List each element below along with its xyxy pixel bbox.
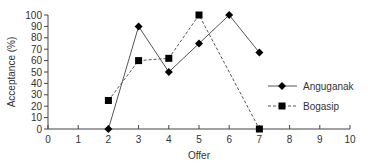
x-tick-label: 3 <box>136 134 142 145</box>
square-marker-icon <box>196 12 203 19</box>
y-tick-label: 90 <box>31 21 43 32</box>
series-bogasip <box>105 12 263 133</box>
series-line <box>108 15 259 129</box>
y-axis-label: Acceptance (%) <box>6 37 17 108</box>
series-anguganak <box>104 11 263 133</box>
y-tick-label: 60 <box>31 55 43 66</box>
x-tick-label: 5 <box>196 134 202 145</box>
series-line <box>108 15 259 129</box>
legend-item-bogasip: Bogasip <box>268 101 340 112</box>
diamond-marker-icon <box>135 22 143 30</box>
x-tick-label: 9 <box>317 134 323 145</box>
square-marker-icon <box>165 55 172 62</box>
y-tick-label: 20 <box>31 101 43 112</box>
x-tick-label: 2 <box>106 134 112 145</box>
y-tick-label: 0 <box>36 124 42 135</box>
y-tick-label: 10 <box>31 112 43 123</box>
y-tick-label: 70 <box>31 44 43 55</box>
series-layer <box>104 11 263 133</box>
x-tick-label: 1 <box>75 134 81 145</box>
y-tick-label: 100 <box>25 10 42 21</box>
x-axis-label: Offer <box>188 150 211 161</box>
diamond-marker-icon <box>278 82 286 90</box>
legend: AnguganakBogasip <box>268 81 355 112</box>
y-tick-label: 80 <box>31 32 43 43</box>
legend-label: Anguganak <box>303 81 355 92</box>
line-chart: 0102030405060708090100012345678910 Angug… <box>0 0 368 167</box>
x-tick-label: 0 <box>45 134 51 145</box>
x-tick-label: 6 <box>226 134 232 145</box>
x-tick-label: 10 <box>344 134 356 145</box>
legend-label: Bogasip <box>303 101 340 112</box>
axes: 0102030405060708090100012345678910 <box>25 10 356 146</box>
diamond-marker-icon <box>104 125 112 133</box>
y-tick-label: 30 <box>31 89 43 100</box>
square-marker-icon <box>256 126 263 133</box>
y-tick-label: 40 <box>31 78 43 89</box>
y-tick-label: 50 <box>31 67 43 78</box>
square-marker-icon <box>105 97 112 104</box>
x-tick-label: 4 <box>166 134 172 145</box>
x-tick-label: 7 <box>257 134 263 145</box>
legend-item-anguganak: Anguganak <box>268 81 355 92</box>
x-tick-label: 8 <box>287 134 293 145</box>
square-marker-icon <box>279 103 286 110</box>
square-marker-icon <box>135 57 142 64</box>
